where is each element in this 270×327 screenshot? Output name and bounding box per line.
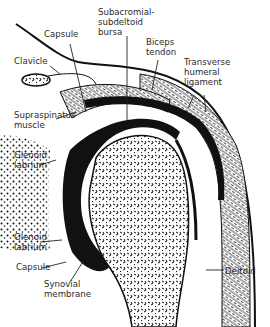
label-glenoid-labrium-bottom: Glenoid labrium <box>14 232 47 252</box>
label-synovial-membrane: Synovial membrane <box>44 279 91 299</box>
label-capsule-bottom: Capsule <box>16 262 50 272</box>
label-subacromial-subdeltoid-bursa: Subacromial- subdeltoid bursa <box>98 7 154 37</box>
humeral-head <box>89 136 189 327</box>
clavicle <box>22 74 96 86</box>
label-capsule-top: Capsule <box>44 29 78 39</box>
label-deltoid: Deltoid <box>225 266 256 276</box>
label-biceps-tendon: Biceps tendon <box>146 37 176 57</box>
label-supraspinatus-muscle: Supraspinatus muscle <box>14 110 75 130</box>
label-glenoid-labrium-top: Glenoid labrium <box>14 150 47 170</box>
label-transverse-humeral-ligament: Transverse humeral ligament <box>184 57 230 87</box>
shoulder-joint-diagram: Capsule Subacromial- subdeltoid bursa Bi… <box>0 0 270 327</box>
label-clavicle: Clavicle <box>14 56 48 66</box>
